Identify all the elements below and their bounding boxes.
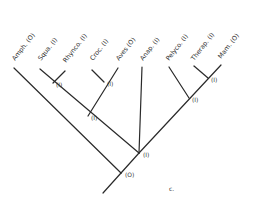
- node-label-synapsid: (I): [192, 96, 198, 103]
- node-label-therap-mam: (I): [211, 76, 217, 83]
- node-label-amniote: (I): [143, 151, 149, 158]
- branch-pelyco: [169, 67, 189, 98]
- branch-archosaur-stem: [88, 68, 118, 116]
- node-label-diapsid: (I): [91, 114, 97, 121]
- node-label-squa-rhynco: (I): [56, 81, 62, 88]
- taxon-label-therap: Therap. (I): [189, 31, 216, 63]
- taxon-label-rhynco: Rhynco. (I): [61, 32, 89, 64]
- taxon-label-croc: Croc. (I): [88, 37, 110, 62]
- branch-root-amniote: [121, 153, 139, 173]
- node-label-croc-aves: (I): [107, 80, 113, 87]
- taxon-label-squa: Squa. (I): [36, 36, 59, 62]
- taxon-label-anap: Anap. (I): [138, 36, 161, 62]
- branch-croc: [92, 70, 104, 82]
- taxon-label-mam: Mam. (O): [216, 32, 241, 60]
- panel-label: c.: [169, 185, 174, 192]
- branch-amph: [14, 68, 121, 173]
- branch-therap: [194, 66, 208, 78]
- branch-anap: [139, 67, 142, 153]
- taxon-label-aves: Aves (O): [114, 36, 137, 62]
- taxon-label-pelyco: Pelyco. (I): [164, 33, 190, 63]
- cladogram: Amph. (O) Squa. (I) Rhynco. (I) Croc. (I…: [0, 0, 253, 203]
- branch-synapsid: [139, 65, 221, 153]
- node-label-root: (O): [125, 171, 134, 178]
- root-stem: [103, 173, 121, 193]
- taxon-label-amph: Amph. (O): [10, 31, 36, 62]
